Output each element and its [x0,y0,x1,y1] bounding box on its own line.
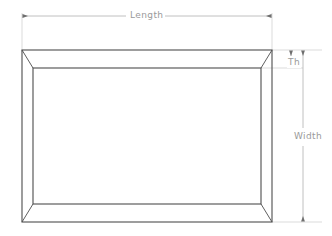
frame-outer-rectangle [22,50,272,222]
dimension-label-length: Length [128,10,165,21]
frame-body [22,50,272,222]
miter-joints [22,50,272,222]
miter-line-bottom-left [22,204,33,222]
frame-technical-drawing [0,0,332,236]
miter-line-top-right [261,50,272,68]
frame-inner-rectangle [33,68,261,204]
diagram-canvas: Length Th Width [0,0,332,236]
miter-line-top-left [22,50,33,68]
miter-line-bottom-right [261,204,272,222]
dimension-label-thickness: Th [287,57,301,68]
dimension-label-width: Width [293,130,323,143]
extension-lines [22,13,322,222]
